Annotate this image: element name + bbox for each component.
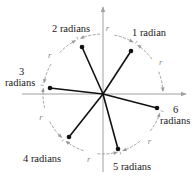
arc-tick [62, 139, 64, 141]
arc-tick [161, 111, 164, 112]
ray-endpoint-dot [129, 49, 134, 54]
arc-segment [43, 89, 45, 109]
radian-diagram: rrrrrr 1 radian 2 radians 3 radians 4 ra… [0, 0, 196, 177]
r-label: r [48, 50, 52, 60]
r-label: r [39, 112, 43, 122]
ray-2-radians [82, 47, 103, 94]
arc-tick [120, 152, 121, 155]
ray-endpoint-dot [80, 45, 85, 50]
label-3-radians: radians [5, 77, 35, 88]
ray-4-radians [69, 94, 103, 137]
arc-segment [150, 114, 159, 131]
arc-segment [44, 64, 51, 82]
arc-segment [159, 72, 163, 91]
arc-tick [77, 37, 78, 40]
arc-tick [135, 41, 137, 44]
ray-endpoint-dot [48, 86, 53, 91]
arc-segment [81, 34, 100, 38]
arc-segment [60, 41, 76, 53]
arc-segment [66, 141, 83, 150]
r-label: r [87, 154, 91, 164]
ray-endpoint-dot [67, 135, 72, 140]
label-6-number: 6 [173, 104, 178, 115]
ray-1-radians [103, 51, 131, 94]
label-4-radians: 4 radians [23, 153, 61, 164]
r-label: r [148, 136, 152, 146]
arc-segment [114, 35, 132, 42]
diagram-canvas: rrrrrr 1 radian 2 radians 3 radians 4 ra… [0, 0, 196, 177]
ray-6-radians [103, 94, 157, 108]
r-label: r [106, 23, 110, 33]
arc-segment [138, 45, 152, 59]
label-2-radians: 2 radians [52, 23, 90, 34]
arc-segment [97, 152, 117, 154]
label-6-radians: radians [160, 115, 190, 126]
label-1-radian: 1 radian [132, 27, 167, 38]
r-label: r [159, 57, 163, 67]
ray-3-radians [50, 88, 103, 94]
label-3-number: 3 [19, 66, 24, 77]
label-5-radians: 5 radians [113, 161, 151, 172]
ray-endpoint-dot [116, 147, 121, 152]
ray-5-radians [103, 94, 118, 149]
arc-segment [123, 141, 140, 150]
ray-endpoint-dot [155, 106, 160, 111]
arc-segment [50, 122, 62, 138]
